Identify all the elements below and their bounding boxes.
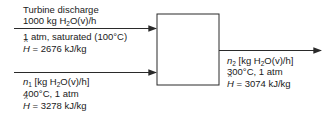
input-2-enthalpy: H = 3278 kJ/kg <box>23 100 87 111</box>
input-1-label-line1: Turbine discharge <box>23 4 99 15</box>
output-conditions: 300°C, 1 atm <box>227 66 283 77</box>
input-2-conditions: 400°C, 1 atm <box>23 88 79 99</box>
h-hat-symbol: H <box>23 43 30 54</box>
input-2-label-line1: n1 [kg H2O(v)/h] <box>23 76 89 87</box>
process-unit-box <box>157 14 219 85</box>
output-enthalpy: H = 3074 kJ/kg <box>227 78 291 89</box>
input-1-label-line2: 1000 kg H2O(v)/h <box>23 15 96 26</box>
input-1-enthalpy: H = 2676 kJ/kg <box>23 43 87 54</box>
h-hat-symbol: H <box>227 78 234 89</box>
input-1-conditions: 1 atm, saturated (100°C) <box>23 31 127 42</box>
output-label-line1: n2 [kg H2O(v)/h] <box>227 55 293 66</box>
h-hat-symbol: H <box>23 100 30 111</box>
